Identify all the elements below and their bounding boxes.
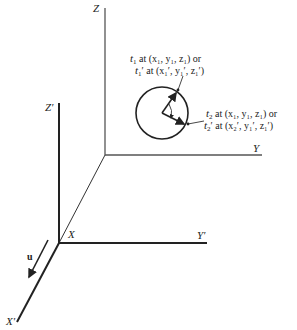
point-t1	[177, 89, 180, 92]
t1-line2-text: ′ at (x₁′, y₁′, z₁′)	[142, 65, 205, 77]
point-t2	[187, 123, 190, 126]
svg-text:t1 at (x₁, y₁, z₁) or: t1 at (x₁, y₁, z₁) or	[130, 52, 202, 66]
svg-text:t2 at (x₁, y₁, z₁) or: t2 at (x₁, y₁, z₁) or	[206, 107, 278, 121]
svg-text:t2′ at (x₂′, y₁′, z₁′): t2′ at (x₂′, y₁′, z₁′)	[204, 119, 273, 133]
t2-line2-text: ′ at (x₂′, y₁′, z₁′)	[211, 120, 274, 132]
svg-text:t1′ at (x₁′, y₁′, z₁′): t1′ at (x₁′, y₁′, z₁′)	[135, 64, 204, 78]
annotation-t2: t2 at (x₁, y₁, z₁) or t2′ at (x₂′, y₁′, …	[204, 107, 278, 133]
relativity-diagram: Z Y X Z′ Y′ X′ u t1 at (x₁, y₁, z₁) or t…	[0, 0, 297, 330]
leader-t1	[178, 76, 183, 90]
x-prime-axis	[17, 243, 59, 322]
z-axis-label: Z	[93, 2, 100, 14]
rotating-circle-group	[136, 76, 204, 139]
y-prime-axis-label: Y′	[197, 229, 206, 241]
velocity-label: u	[27, 251, 33, 262]
y-axis-label: Y	[253, 142, 261, 154]
x-axis-label: X	[67, 228, 76, 240]
annotation-t1: t1 at (x₁, y₁, z₁) or t1′ at (x₁′, y₁′, …	[130, 52, 204, 78]
x-axis	[59, 155, 105, 243]
t1-line1-text: at (x₁, y₁, z₁) or	[137, 53, 202, 65]
vector-t1	[162, 93, 176, 113]
z-prime-axis-label: Z′	[45, 101, 54, 113]
t2-line1-text: at (x₁, y₁, z₁) or	[213, 108, 278, 120]
vector-t2	[162, 113, 184, 124]
leader-t2	[188, 121, 204, 124]
x-prime-axis-label: X′	[5, 315, 16, 327]
